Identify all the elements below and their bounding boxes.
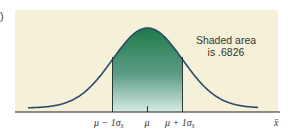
tick-label-right: μ + 1σx̄ bbox=[164, 117, 195, 129]
tick-label-left: μ − 1σx̄ bbox=[93, 117, 124, 129]
normal-distribution-chart: Shaded area is .6826 μ − 1σx̄ μ μ + 1σx̄… bbox=[0, 0, 290, 134]
tick-label-mean: μ bbox=[143, 117, 149, 128]
svg-text:μ + 1σx̄: μ + 1σx̄ bbox=[164, 117, 195, 129]
annotation-line-2: is .6826 bbox=[208, 46, 245, 58]
svg-text:μ − 1σx̄: μ − 1σx̄ bbox=[93, 117, 124, 129]
x-axis-label: x̄ bbox=[273, 117, 279, 128]
annotation-line-1: Shaded area bbox=[196, 34, 256, 46]
